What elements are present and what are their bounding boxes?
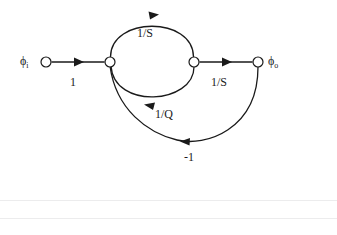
arrowhead-forward-top-right — [149, 12, 160, 20]
arrowhead-feedback-q-left — [144, 103, 155, 111]
arrowhead-output-right — [222, 58, 232, 67]
gain-label-forward-top: 1/S — [137, 27, 153, 39]
edge-feedback-unity-arc — [110, 66, 258, 146]
edge-feedback-unity-line — [110, 66, 258, 141]
edge-input-branch — [52, 58, 105, 67]
node-n2[interactable] — [189, 57, 199, 67]
edge-feedback-q-line — [111, 66, 194, 97]
label-phi-o-subscript: o — [274, 61, 278, 70]
arrowhead-feedback-unity-left — [180, 138, 190, 146]
arrowhead-input-right — [74, 58, 84, 67]
node-phi-o[interactable] — [253, 57, 263, 67]
figure-canvas: ϕi ϕo 1 1/S 1/Q 1/S -1 — [0, 0, 337, 235]
gain-label-output: 1/S — [211, 76, 227, 88]
edge-output-branch — [200, 58, 253, 67]
label-phi-i-subscript: i — [26, 61, 28, 70]
page-rule-lower — [0, 218, 337, 219]
node-n1[interactable] — [105, 57, 115, 67]
gain-label-feedback-q: 1/Q — [155, 108, 173, 120]
gain-label-feedback-unity: -1 — [184, 151, 194, 163]
label-phi-o: ϕo — [268, 55, 278, 70]
node-phi-i[interactable] — [41, 57, 51, 67]
gain-label-input: 1 — [70, 76, 76, 88]
label-phi-i: ϕi — [20, 55, 29, 70]
page-rule-upper — [0, 200, 337, 201]
